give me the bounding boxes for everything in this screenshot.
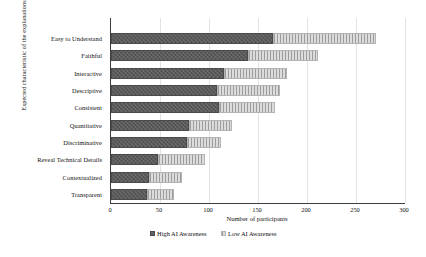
x-axis-title: Number of participants bbox=[110, 215, 404, 222]
bar-segment-low-ai-awareness bbox=[158, 154, 205, 165]
bar-segment-low-ai-awareness bbox=[189, 120, 231, 131]
bar-stack bbox=[111, 102, 275, 113]
bar-segment-high-ai-awareness bbox=[111, 85, 217, 96]
legend-label: High AI Awareness bbox=[157, 230, 206, 237]
bar-segment-low-ai-awareness bbox=[147, 189, 173, 200]
bar-stack bbox=[111, 33, 376, 44]
bar-row bbox=[111, 82, 405, 99]
legend-item: High AI Awareness bbox=[150, 230, 207, 237]
category-axis-labels: Easy to UnderstandFaithfulInteractiveDes… bbox=[20, 30, 106, 203]
bar-segment-high-ai-awareness bbox=[111, 102, 219, 113]
category-label: Discriminative bbox=[20, 134, 106, 151]
bar-row bbox=[111, 186, 405, 203]
bars-layer bbox=[111, 30, 405, 203]
bar-segment-low-ai-awareness bbox=[149, 172, 181, 183]
category-label: Quantitative bbox=[20, 116, 106, 133]
bar-stack bbox=[111, 85, 280, 96]
bar-row bbox=[111, 99, 405, 116]
bar-segment-low-ai-awareness bbox=[248, 50, 318, 61]
bar-row bbox=[111, 47, 405, 64]
category-label: Consistent bbox=[20, 99, 106, 116]
bar-stack bbox=[111, 120, 232, 131]
category-label: Descriptive bbox=[20, 82, 106, 99]
x-axis-tick: 200 bbox=[301, 206, 311, 213]
category-label: Reveal Technical Details bbox=[20, 151, 106, 168]
bar-row bbox=[111, 168, 405, 185]
bar-segment-low-ai-awareness bbox=[273, 33, 376, 44]
bar-stack bbox=[111, 50, 318, 61]
x-axis-tick: 250 bbox=[350, 206, 360, 213]
bar-segment-high-ai-awareness bbox=[111, 33, 273, 44]
bar-segment-low-ai-awareness bbox=[187, 137, 220, 148]
bar-row bbox=[111, 65, 405, 82]
bar-stack bbox=[111, 189, 174, 200]
bar-row bbox=[111, 116, 405, 133]
category-label: Faithful bbox=[20, 47, 106, 64]
chart-legend: High AI AwarenessLow AI Awareness bbox=[0, 230, 426, 237]
plot-area bbox=[110, 18, 405, 204]
bar-segment-low-ai-awareness bbox=[217, 85, 280, 96]
bar-segment-low-ai-awareness bbox=[224, 68, 288, 79]
bar-stack bbox=[111, 154, 205, 165]
x-axis-tick: 50 bbox=[156, 206, 162, 213]
legend-swatch-icon bbox=[150, 231, 155, 236]
category-label: Easy to Understand bbox=[20, 30, 106, 47]
bar-segment-low-ai-awareness bbox=[219, 102, 275, 113]
bar-stack bbox=[111, 137, 221, 148]
bar-segment-high-ai-awareness bbox=[111, 172, 149, 183]
bar-segment-high-ai-awareness bbox=[111, 189, 147, 200]
category-label: Transparent bbox=[20, 186, 106, 203]
bar-segment-high-ai-awareness bbox=[111, 137, 187, 148]
x-axis-tick: 150 bbox=[252, 206, 262, 213]
category-label: Contextualized bbox=[20, 168, 106, 185]
bar-segment-high-ai-awareness bbox=[111, 120, 189, 131]
x-axis-tick: 100 bbox=[203, 206, 213, 213]
gridline bbox=[405, 18, 406, 203]
legend-swatch-icon bbox=[221, 231, 226, 236]
bar-segment-high-ai-awareness bbox=[111, 68, 224, 79]
legend-item: Low AI Awareness bbox=[221, 230, 277, 237]
bar-chart: Expected characteristic of the explanati… bbox=[0, 0, 426, 257]
bar-row bbox=[111, 134, 405, 151]
bar-segment-high-ai-awareness bbox=[111, 50, 248, 61]
category-label: Interactive bbox=[20, 65, 106, 82]
bar-segment-high-ai-awareness bbox=[111, 154, 158, 165]
bar-row bbox=[111, 30, 405, 47]
bar-stack bbox=[111, 68, 287, 79]
legend-label: Low AI Awareness bbox=[228, 230, 276, 237]
bar-row bbox=[111, 151, 405, 168]
bar-stack bbox=[111, 172, 182, 183]
x-axis-tick: 0 bbox=[108, 206, 111, 213]
x-axis-tick: 300 bbox=[399, 206, 409, 213]
